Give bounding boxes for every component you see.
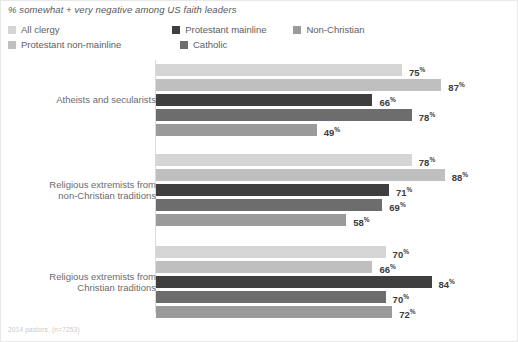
- legend-item[interactable]: Non-Christian: [293, 22, 408, 37]
- percent-sign: %: [390, 96, 396, 103]
- bar-value-number: 88: [452, 172, 463, 183]
- bar-value-number: 58: [353, 217, 364, 228]
- category-label-line: Religious extremists from: [0, 179, 156, 191]
- percent-sign: %: [334, 126, 340, 133]
- legend-item[interactable]: All clergy: [8, 22, 172, 37]
- chart-title: % somewhat + very negative among US fait…: [8, 4, 237, 15]
- bar-value-number: 71: [396, 187, 407, 198]
- bar-value-label: 66%: [379, 94, 395, 109]
- bar-value-number: 84: [439, 279, 450, 290]
- bar-row: 49%: [156, 124, 518, 136]
- bar-value-label: 78%: [419, 154, 435, 169]
- percent-sign: %: [420, 66, 426, 73]
- bar[interactable]: [156, 109, 412, 121]
- legend-item-label: Catholic: [193, 39, 227, 50]
- bar-row: 70%: [156, 246, 518, 258]
- bar-row: 72%: [156, 306, 518, 318]
- bar[interactable]: [156, 64, 402, 76]
- bar-value-label: 88%: [452, 169, 468, 184]
- bar-value-label: 70%: [393, 246, 409, 261]
- bar-value-number: 69: [389, 202, 400, 213]
- bar-value-label: 70%: [393, 291, 409, 306]
- plot-area: Atheists and secularists75%87%66%78%49%R…: [1, 58, 518, 316]
- percent-sign: %: [449, 278, 455, 285]
- category-label-line: Religious extremists from: [0, 271, 156, 283]
- bar[interactable]: [156, 184, 389, 196]
- legend-item[interactable]: Protestant mainline: [172, 22, 293, 37]
- bar-value-number: 75: [409, 67, 420, 78]
- percent-sign: %: [403, 293, 409, 300]
- legend-swatch-icon: [8, 26, 16, 34]
- bar-row: 71%: [156, 184, 518, 196]
- bar-list: 78%88%71%69%58%: [156, 154, 518, 229]
- category-label: Religious extremists fromnon-Christian t…: [0, 179, 156, 202]
- bar-value-number: 70: [393, 249, 404, 260]
- chart-footnote: 2014 pastors, (n=7253): [8, 326, 80, 333]
- bar-value-label: 78%: [419, 109, 435, 124]
- category-label: Atheists and secularists: [0, 94, 156, 106]
- percent-sign: %: [406, 186, 412, 193]
- bar-list: 75%87%66%78%49%: [156, 64, 518, 139]
- percent-sign: %: [364, 216, 370, 223]
- bar[interactable]: [156, 94, 372, 106]
- legend-row: All clergyProtestant mainlineNon-Christi…: [8, 22, 408, 37]
- bar-row: 87%: [156, 79, 518, 91]
- bar[interactable]: [156, 306, 392, 318]
- bar-value-number: 66: [379, 264, 390, 275]
- chart-legend: All clergyProtestant mainlineNon-Christi…: [8, 22, 408, 52]
- category-label-line: Atheists and secularists: [0, 94, 156, 106]
- percent-sign: %: [403, 248, 409, 255]
- percent-sign: %: [390, 263, 396, 270]
- legend-item-label: All clergy: [21, 24, 60, 35]
- percent-sign: %: [429, 156, 435, 163]
- bar-value-label: 58%: [353, 214, 369, 229]
- bar[interactable]: [156, 169, 445, 181]
- bar-value-label: 72%: [399, 306, 415, 321]
- legend-swatch-icon: [172, 26, 180, 34]
- bar[interactable]: [156, 246, 386, 258]
- bar-value-number: 78: [419, 112, 430, 123]
- bar-row: 58%: [156, 214, 518, 226]
- bar-value-label: 49%: [324, 124, 340, 139]
- bar-value-label: 71%: [396, 184, 412, 199]
- percent-sign: %: [462, 171, 468, 178]
- percent-sign: %: [410, 308, 416, 315]
- bar[interactable]: [156, 261, 372, 273]
- bar-row: 78%: [156, 109, 518, 121]
- percent-sign: %: [459, 81, 465, 88]
- bar-value-number: 49: [324, 127, 335, 138]
- bar-row: 88%: [156, 169, 518, 181]
- bar-value-number: 87: [448, 82, 459, 93]
- legend-item-label: Protestant mainline: [185, 24, 266, 35]
- bar[interactable]: [156, 291, 386, 303]
- bar-value-label: 69%: [389, 199, 405, 214]
- bar[interactable]: [156, 199, 382, 211]
- bar[interactable]: [156, 276, 432, 288]
- bar-row: 78%: [156, 154, 518, 166]
- bar-row: 75%: [156, 64, 518, 76]
- bar-row: 84%: [156, 276, 518, 288]
- bar-value-number: 70: [393, 294, 404, 305]
- bar-row: 66%: [156, 261, 518, 273]
- legend-item[interactable]: Catholic: [180, 37, 307, 52]
- bar-value-label: 87%: [448, 79, 464, 94]
- bar[interactable]: [156, 154, 412, 166]
- percent-sign: %: [429, 111, 435, 118]
- bar-row: 70%: [156, 291, 518, 303]
- legend-item-label: Non-Christian: [306, 24, 364, 35]
- bar-value-label: 75%: [409, 64, 425, 79]
- legend-swatch-icon: [293, 26, 301, 34]
- bar[interactable]: [156, 214, 346, 226]
- bar-value-number: 66: [379, 97, 390, 108]
- bar[interactable]: [156, 124, 317, 136]
- legend-row: Protestant non-mainlineCatholic: [8, 37, 408, 52]
- bar-value-number: 78: [419, 157, 430, 168]
- bar-row: 69%: [156, 199, 518, 211]
- legend-item[interactable]: Protestant non-mainline: [8, 37, 180, 52]
- legend-item-label: Protestant non-mainline: [21, 39, 121, 50]
- bar[interactable]: [156, 79, 441, 91]
- bar-value-number: 72: [399, 309, 410, 320]
- bar-value-label: 84%: [439, 276, 455, 291]
- bar-list: 70%66%84%70%72%: [156, 246, 518, 321]
- percent-sign: %: [400, 201, 406, 208]
